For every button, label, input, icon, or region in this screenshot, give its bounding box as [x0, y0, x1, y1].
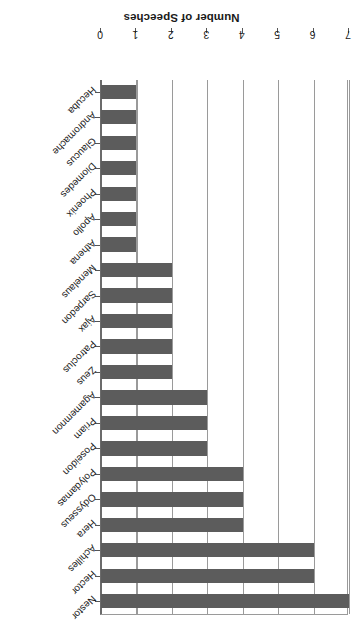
bar-row [101, 589, 347, 614]
bar-row [101, 232, 347, 257]
value-tick-label: 4 [239, 28, 245, 42]
bar-row [101, 436, 347, 461]
bar [101, 543, 314, 557]
category-axis-labels: NestorHectorAchillesHeraOdysseusPolydama… [2, 80, 98, 615]
bar [101, 365, 172, 379]
bar-row [101, 206, 347, 231]
bar-row [101, 538, 347, 563]
bar [101, 237, 136, 251]
chart-figure: 01234567 Number of Speeches NestorHector… [0, 0, 363, 625]
gridline [349, 80, 350, 614]
bar [101, 467, 243, 481]
bar [101, 288, 172, 302]
plot-area [100, 80, 348, 615]
bar-row [101, 308, 347, 333]
value-tick-label: 5 [274, 28, 280, 42]
value-tick-label: 6 [310, 28, 316, 42]
category-label: Athena [68, 237, 97, 266]
bar [101, 441, 207, 455]
bar-row [101, 385, 347, 410]
bar-row [101, 410, 347, 435]
bar [101, 136, 136, 150]
value-tick-label: 7 [345, 28, 351, 42]
bar-row [101, 512, 347, 537]
category-label: Nestor [70, 594, 98, 622]
bar-row [101, 487, 347, 512]
bar-row [101, 79, 347, 104]
bar [101, 110, 136, 124]
value-tick-label: 0 [97, 28, 103, 42]
bar [101, 518, 243, 532]
bar-row [101, 563, 347, 588]
bar [101, 594, 349, 608]
bar-row [101, 257, 347, 282]
value-axis-ticks: 01234567 [100, 28, 348, 42]
bar-row [101, 283, 347, 308]
bar [101, 314, 172, 328]
bar [101, 212, 136, 226]
bar [101, 569, 314, 583]
axis-title: Number of Speeches [0, 8, 363, 24]
value-tick-label: 3 [203, 28, 209, 42]
bar [101, 263, 172, 277]
bar-row [101, 181, 347, 206]
value-tick-label: 1 [133, 28, 139, 42]
bar [101, 187, 136, 201]
bar-row [101, 359, 347, 384]
bar [101, 492, 243, 506]
bar-row [101, 334, 347, 359]
category-label: Ajax [77, 313, 98, 334]
bar [101, 390, 207, 404]
bar [101, 85, 136, 99]
bar-row [101, 130, 347, 155]
bar [101, 339, 172, 353]
bar-row [101, 461, 347, 486]
bars-layer [101, 80, 347, 614]
category-label: Zeus [75, 364, 98, 387]
category-label: Achilles [66, 543, 97, 574]
category-label: Hera [75, 517, 97, 539]
bar [101, 416, 207, 430]
bar-row [101, 104, 347, 129]
bar-row [101, 155, 347, 180]
value-tick-label: 2 [168, 28, 174, 42]
bar [101, 161, 136, 175]
